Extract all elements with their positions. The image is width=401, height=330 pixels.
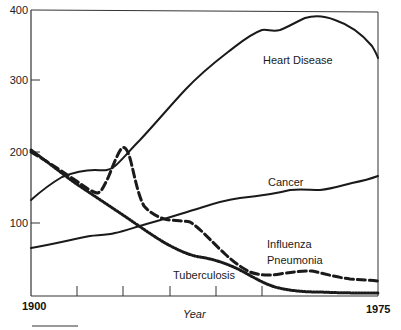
pneumonia-label: Pneumonia [267,254,324,266]
y-tick-label-400: 400 [10,4,28,16]
cancer-label: Cancer [268,176,304,188]
x-axis-title: Year [183,308,207,320]
plot-frame [31,10,378,296]
tuberculosis-label: Tuberculosis [173,269,235,281]
x-tick-label-1900: 1900 [22,300,46,312]
mortality-line-chart: 400 300 200 100 1900 1975 Year Heart Dis… [0,0,401,330]
y-tick-label-200: 200 [10,146,28,158]
x-tick-label-1975: 1975 [366,303,390,315]
y-tick-label-100: 100 [10,217,28,229]
heart-disease-line [31,16,378,200]
series-labels: Heart Disease Cancer Influenza Pneumonia… [173,54,333,281]
influenza-label: Influenza [267,238,313,250]
influenza-pneumonia-line [31,148,378,281]
top-border [31,10,378,12]
heart-disease-label: Heart Disease [263,54,333,66]
y-tick-label-300: 300 [10,74,28,86]
